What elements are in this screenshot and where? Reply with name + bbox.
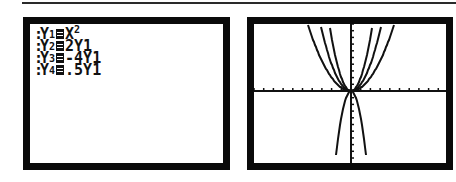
y-editor-screen: : Y 1 X 2 : Y 2 2Y1 : Y 3 -4Y1 : Y 4 .5Y… [23,17,230,170]
function-name: Y [40,64,49,76]
top-rule-divider [22,2,456,4]
function-list: : Y 1 X 2 : Y 2 2Y1 : Y 3 -4Y1 : Y 4 .5Y… [34,28,101,76]
function-row-y4[interactable]: : Y 4 .5Y1 [34,64,101,76]
function-expression[interactable]: .5Y1 [65,64,101,76]
function-subscript: 2 [49,41,55,53]
equals-selected-icon[interactable] [56,53,64,63]
equals-selected-icon[interactable] [56,65,64,75]
graph-screen [247,17,453,170]
function-exponent: 2 [74,24,80,36]
function-subscript: 3 [49,53,55,65]
equals-selected-icon[interactable] [56,29,64,39]
graph-axes [254,24,446,163]
function-subscript: 1 [49,29,55,41]
equals-selected-icon[interactable] [56,41,64,51]
graph-plot-area [254,24,446,163]
function-subscript: 4 [49,65,55,77]
